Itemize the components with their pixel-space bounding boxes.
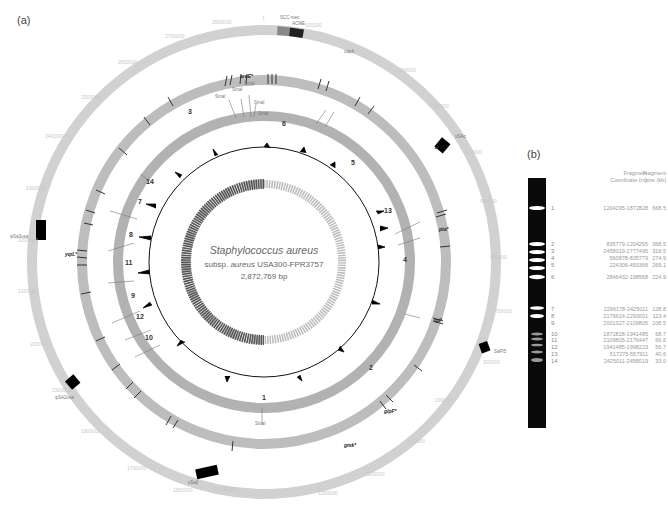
fragment-number: 5 — [551, 262, 554, 268]
fragment-number: 11 — [551, 337, 557, 343]
svg-text:1000000: 1000000 — [435, 397, 455, 403]
svg-text:1800000: 1800000 — [81, 428, 101, 434]
fragment-coordinates: 835779-1204295 — [570, 241, 648, 247]
fragment-coordinates: 2458019-2777495 — [570, 248, 648, 254]
svg-text:SmaI: SmaI — [215, 94, 226, 99]
svg-text:νSaβ: νSaβ — [188, 480, 199, 485]
coord-header: Fragment Coordinate (nt) — [585, 170, 647, 184]
svg-text:SmaI: SmaI — [244, 81, 255, 86]
svg-text:400000: 400000 — [465, 149, 482, 155]
genome-map: 1 100000 200000 300000 400000 500000 600… — [0, 0, 668, 514]
svg-text:1500000: 1500000 — [173, 487, 193, 493]
svg-text:1100000: 1100000 — [406, 438, 425, 444]
svg-text:8: 8 — [129, 231, 133, 238]
fragment-number: 8 — [551, 313, 554, 319]
fragment-coordinates: 1941485-1998223 — [570, 344, 648, 350]
svg-text:ACME: ACME — [292, 21, 305, 26]
fragment-size: 56.7 — [644, 344, 666, 350]
svg-text:300000: 300000 — [432, 103, 449, 109]
fragment-coordinates: 560878-835779 — [570, 255, 648, 261]
svg-text:2300000: 2300000 — [26, 185, 46, 191]
svg-text:tpi*: tpi* — [434, 317, 443, 323]
fragment-size: 66.6 — [644, 337, 666, 343]
fragment-number: 2 — [551, 241, 554, 247]
fragment-coordinates: 2109805-2176447 — [570, 337, 648, 343]
svg-text:SmaI: SmaI — [255, 421, 266, 426]
svg-text:φSA2usa: φSA2usa — [55, 395, 74, 400]
svg-text:pta*: pta* — [438, 226, 450, 232]
svg-text:1400000: 1400000 — [218, 486, 238, 492]
svg-text:6: 6 — [282, 120, 286, 127]
svg-text:2800000: 2800000 — [212, 19, 232, 25]
svg-text:13: 13 — [384, 207, 392, 214]
svg-text:200000: 200000 — [399, 67, 416, 73]
fragment-number: 6 — [551, 274, 554, 280]
svg-text:φSa3usa: φSa3usa — [10, 234, 29, 239]
svg-text:SaPI5: SaPI5 — [494, 349, 507, 354]
svg-text:2000000: 2000000 — [30, 341, 50, 347]
svg-text:νSAα: νSAα — [455, 134, 466, 139]
size-header: Fragment size (kb) — [640, 170, 666, 184]
svg-text:10: 10 — [145, 334, 153, 341]
svg-text:glpF*: glpF* — [383, 408, 398, 414]
fragment-size: 113.4 — [644, 313, 666, 319]
svg-text:1700000: 1700000 — [127, 465, 147, 471]
svg-text:arcC*: arcC* — [435, 144, 449, 150]
fragment-size: 224.9 — [644, 274, 666, 280]
pfge-gel-lane — [528, 178, 546, 428]
svg-text:2100000: 2100000 — [18, 288, 38, 294]
fragment-number: 4 — [551, 255, 554, 261]
fragment-number: 1 — [551, 205, 554, 211]
svg-text:600000: 600000 — [490, 254, 507, 260]
svg-text:2700000: 2700000 — [165, 33, 185, 39]
svg-text:SCC mec: SCC mec — [280, 15, 300, 20]
svg-text:3: 3 — [188, 108, 192, 115]
svg-text:gmk*: gmk* — [343, 442, 357, 448]
svg-text:4: 4 — [403, 256, 407, 263]
svg-text:7: 7 — [138, 198, 142, 205]
svg-text:9: 9 — [131, 292, 135, 299]
svg-text:12: 12 — [136, 313, 144, 320]
fragment-size: 368.5 — [644, 241, 666, 247]
svg-text:2500000: 2500000 — [81, 94, 101, 100]
svg-text:SmaI: SmaI — [258, 111, 269, 116]
fragment-size: 319.5 — [644, 248, 666, 254]
svg-text:5: 5 — [351, 159, 355, 166]
svg-text:aroE*: aroE* — [240, 73, 254, 79]
fragment-coordinates: 224306-493368 — [570, 262, 648, 268]
fragment-coordinates: 517275-557911 — [570, 351, 648, 357]
svg-text:1900000: 1900000 — [52, 387, 72, 393]
fragment-size: 128.8 — [644, 306, 666, 312]
svg-text:SmaI: SmaI — [254, 100, 265, 105]
svg-text:700000: 700000 — [495, 308, 512, 314]
fragment-coordinates: 2296178-2425011 — [570, 306, 648, 312]
svg-text:subsp. aureus USA3: subsp. aureus USA300-FPR3757 — [205, 260, 324, 269]
svg-text:2: 2 — [369, 364, 373, 371]
svg-text:Staphylococcus aureus: Staphylococcus aureus — [210, 244, 319, 256]
fragment-coordinates: 2846432-198568 — [570, 274, 648, 280]
svg-text:2400000: 2400000 — [45, 133, 65, 139]
svg-text:SmaI: SmaI — [232, 87, 243, 92]
svg-text:1: 1 — [262, 15, 265, 21]
fragment-coordinates: 2001327-2109805 — [570, 320, 648, 326]
fragment-size: 40.6 — [644, 351, 666, 357]
svg-text:1200000: 1200000 — [365, 471, 385, 477]
svg-text:11: 11 — [125, 259, 133, 266]
fragment-coordinates: 2179624-2293001 — [570, 313, 648, 319]
svg-text:100000: 100000 — [305, 22, 322, 28]
svg-text:900000: 900000 — [483, 359, 500, 365]
fragment-number: 13 — [551, 351, 558, 357]
fragment-coordinates: 2425011-2458019 — [570, 358, 648, 364]
fragment-number: 7 — [551, 306, 554, 312]
fragment-size: 108.5 — [644, 320, 666, 326]
fragment-size: 668.5 — [644, 205, 666, 211]
svg-text:2,872,769 bp: 2,872,769 bp — [241, 272, 288, 281]
svg-text:500000: 500000 — [480, 198, 497, 204]
svg-text:capA: capA — [344, 49, 354, 54]
fragment-size: 269.1 — [644, 262, 666, 268]
fragment-size: 33.0 — [644, 358, 666, 364]
fragment-number: 3 — [551, 248, 554, 254]
svg-text:yqiL*: yqiL* — [64, 251, 78, 257]
fragment-size: 274.9 — [644, 255, 666, 261]
fragment-coordinates: 1204295-1872828 — [570, 205, 648, 211]
